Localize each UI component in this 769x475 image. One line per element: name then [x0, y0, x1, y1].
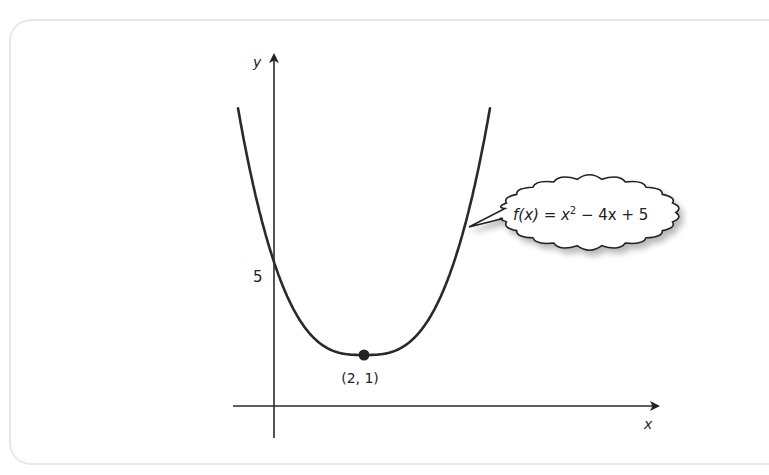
- x-axis-label: x: [643, 416, 653, 432]
- vertex-point: [359, 350, 370, 361]
- function-curve: [238, 108, 490, 355]
- function-label-prefix: f(x) = x: [513, 206, 570, 224]
- y-axis-label: y: [252, 54, 262, 70]
- function-label: f(x) = x2 − 4x + 5: [513, 205, 648, 224]
- y-tick-label-5: 5: [253, 268, 263, 286]
- function-label-suffix: − 4x + 5: [576, 206, 648, 224]
- vertex-label: (2, 1): [341, 370, 379, 386]
